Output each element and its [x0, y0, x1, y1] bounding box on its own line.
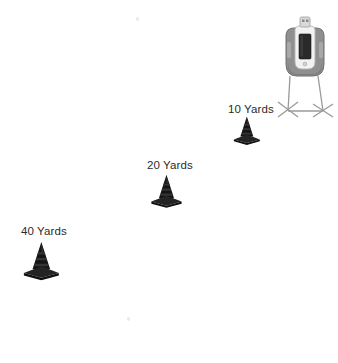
device-grip-left	[287, 42, 291, 58]
distance-label-10: 10 Yards	[228, 104, 274, 116]
device-connector-pin-left	[302, 20, 305, 23]
device-screen-glare	[301, 36, 304, 57]
traffic-cone-40[interactable]	[20, 240, 63, 285]
timing-device-icon	[272, 14, 338, 124]
traffic-cone-icon	[148, 173, 185, 208]
device-button	[303, 62, 307, 66]
traffic-cone-20[interactable]	[148, 173, 185, 212]
distance-label-20: 20 Yards	[147, 160, 193, 172]
device-grip-right	[319, 42, 323, 58]
traffic-cone-icon	[231, 115, 263, 145]
traffic-cone-10[interactable]	[231, 115, 263, 148]
distance-label-40: 40 Yards	[21, 226, 67, 238]
speck-mark	[136, 17, 139, 21]
device-connector-pin-right	[306, 20, 309, 23]
timing-device-group[interactable]	[272, 14, 338, 128]
speck-mark	[127, 317, 130, 321]
drill-diagram-canvas: 10 Yards 20 Yards 40 Yards	[0, 0, 338, 363]
traffic-cone-icon	[20, 240, 63, 281]
tripod-legs	[278, 76, 333, 117]
